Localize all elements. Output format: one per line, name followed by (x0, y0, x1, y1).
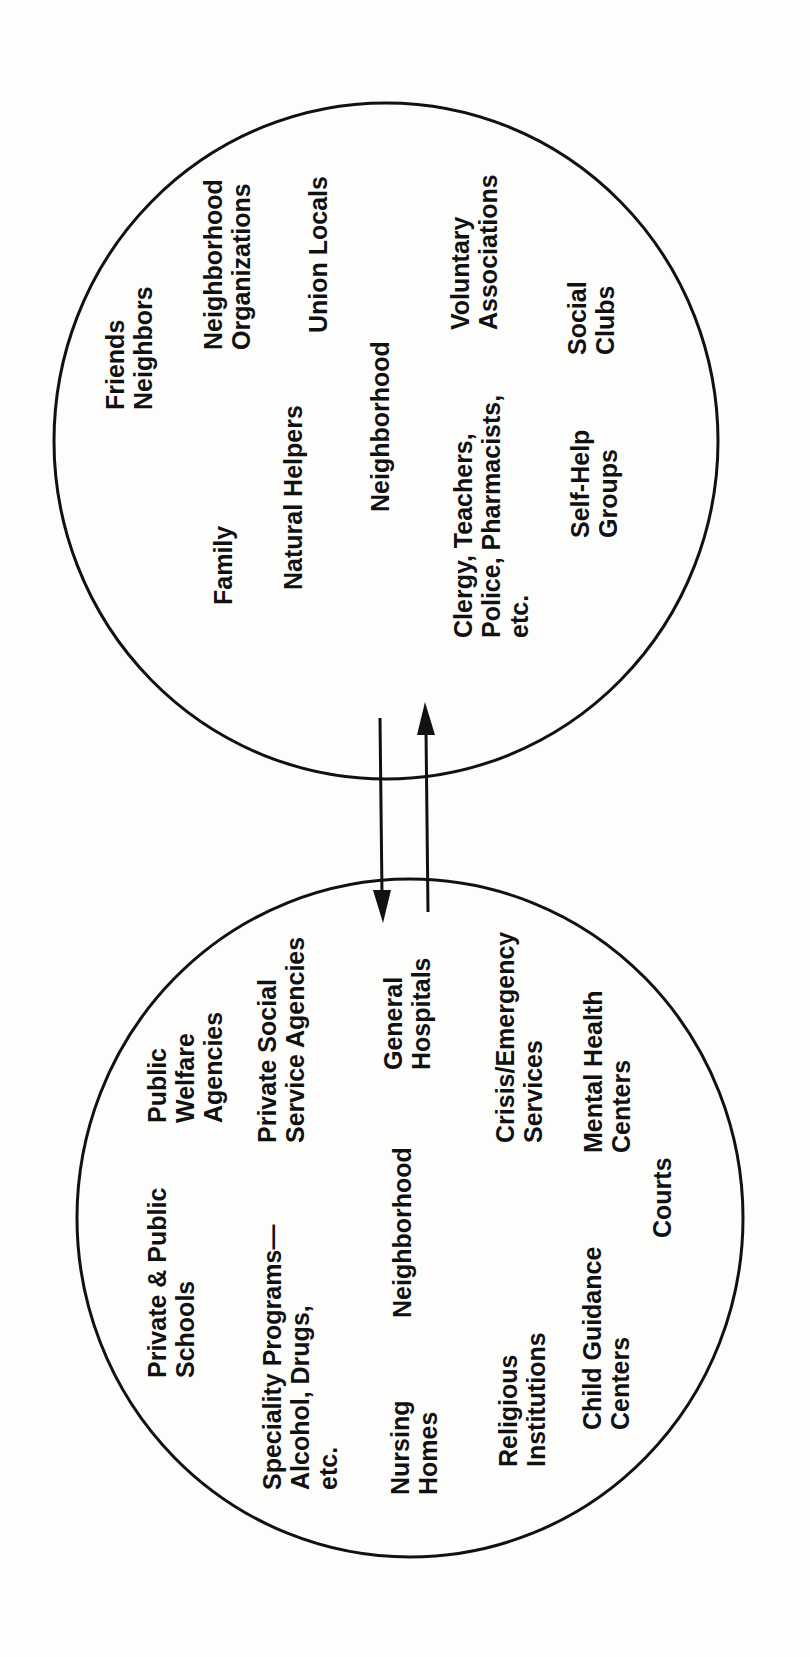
label-line: Organizations (227, 183, 255, 350)
label-child-guidance-centers: Child Guidance Centers (578, 1247, 634, 1430)
label-line: Friends (101, 320, 129, 410)
label-line: Centers (606, 1337, 634, 1430)
label-line: Homes (414, 1412, 442, 1495)
label-line: etc. (314, 1447, 342, 1490)
label-public-welfare-agencies: Public Welfare Agencies (143, 1012, 227, 1123)
informal-network-circle: Friends Neighbors Neighborhood Organizat… (54, 103, 718, 779)
label-line: Religious (494, 1354, 522, 1467)
connector-arrows (373, 702, 435, 923)
label-courts: Courts (648, 1157, 676, 1238)
label-line: Associations (474, 174, 502, 330)
label-line: Agencies (199, 1012, 227, 1123)
label-line: General (379, 977, 407, 1070)
label-line: Private & Public (143, 1188, 171, 1378)
label-line: Child Guidance (578, 1247, 606, 1430)
label-line: Speciality Programs— (258, 1225, 286, 1490)
label-line: Union Locals (304, 176, 332, 333)
label-line: Hospitals (407, 957, 435, 1070)
label-line: Welfare (171, 1033, 199, 1123)
label-speciality-programs: Speciality Programs— Alcohol, Drugs, etc… (258, 1225, 342, 1490)
label-line: Social (563, 281, 591, 355)
arrow-up-shaft (426, 730, 428, 912)
label-line: Service Agencies (281, 937, 309, 1143)
arrow-down-head-icon (373, 890, 391, 923)
label-natural-helpers: Natural Helpers (279, 405, 307, 590)
label-line: Crisis/Emergency (491, 932, 519, 1143)
label-line: Courts (648, 1157, 676, 1238)
label-private-public-schools: Private & Public Schools (143, 1188, 199, 1378)
label-line: Neighborhood (388, 1147, 416, 1318)
label-line: Institutions (522, 1332, 550, 1467)
label-self-help-groups: Self-Help Groups (566, 430, 622, 538)
label-line: Services (519, 1040, 547, 1143)
label-line: Voluntary (446, 216, 474, 330)
label-line: Police, Pharmacists, (477, 395, 505, 638)
label-mental-health-centers: Mental Health Centers (579, 990, 635, 1153)
label-crisis-emergency-services: Crisis/Emergency Services (491, 932, 547, 1143)
label-religious-institutions: Religious Institutions (494, 1332, 550, 1467)
formal-network-circle: Public Welfare Agencies Private & Public… (77, 879, 743, 1557)
label-line: Clubs (591, 286, 619, 355)
label-line: Neighbors (129, 286, 157, 410)
arrow-down-shaft (380, 718, 382, 895)
label-private-social-service-agencies: Private Social Service Agencies (253, 937, 309, 1143)
label-nursing-homes: Nursing Homes (386, 1401, 442, 1495)
label-general-hospitals: General Hospitals (379, 957, 435, 1070)
label-neighborhood-center-formal: Neighborhood (388, 1147, 416, 1318)
label-line: Private Social (253, 979, 281, 1143)
arrow-up-head-icon (417, 702, 435, 735)
label-union-locals: Union Locals (304, 176, 332, 333)
diagram-canvas: Friends Neighbors Neighborhood Organizat… (0, 0, 810, 1657)
label-neighborhood-center-informal: Neighborhood (366, 341, 394, 512)
label-line: Nursing (386, 1401, 414, 1495)
label-line: Schools (171, 1281, 199, 1378)
label-line: Groups (594, 449, 622, 538)
label-family: Family (209, 526, 237, 605)
network-diagram: Friends Neighbors Neighborhood Organizat… (0, 0, 810, 1657)
label-social-clubs: Social Clubs (563, 281, 619, 355)
label-line: Alcohol, Drugs, (286, 1305, 314, 1490)
label-line: Family (209, 526, 237, 605)
label-line: Neighborhood (199, 179, 227, 350)
label-line: Centers (607, 1060, 635, 1153)
label-line: Mental Health (579, 990, 607, 1153)
label-line: Neighborhood (366, 341, 394, 512)
label-line: Public (143, 1048, 171, 1123)
label-clergy-teachers-police: Clergy, Teachers, Police, Pharmacists, e… (449, 395, 533, 638)
label-neighborhood-organizations: Neighborhood Organizations (199, 179, 255, 350)
label-voluntary-associations: Voluntary Associations (446, 174, 502, 330)
label-line: Clergy, Teachers, (449, 433, 477, 638)
label-line: Self-Help (566, 430, 594, 538)
arrow-down-to-formal (373, 718, 391, 923)
label-line: Natural Helpers (279, 405, 307, 590)
label-friends-neighbors: Friends Neighbors (101, 286, 157, 410)
label-line: etc. (505, 595, 533, 638)
